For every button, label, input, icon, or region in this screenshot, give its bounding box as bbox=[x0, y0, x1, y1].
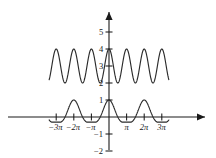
y-tick-label: 4 bbox=[99, 45, 103, 54]
y-tick-label: 2 bbox=[99, 79, 103, 88]
x-tick-label: −3π bbox=[48, 123, 62, 132]
plot-canvas bbox=[0, 0, 216, 158]
y-tick-label: −2 bbox=[94, 147, 103, 156]
trig-graph-figure: −3π−2π−ππ2π3π 54321−1−2 bbox=[0, 0, 216, 158]
x-tick-label: π bbox=[125, 123, 129, 132]
x-tick-label: 2π bbox=[140, 123, 149, 132]
y-tick-label: 1 bbox=[99, 96, 103, 105]
y-tick-label: 3 bbox=[99, 62, 103, 71]
y-axis-up-arrow-icon bbox=[105, 12, 112, 20]
x-tick-label: −2π bbox=[66, 123, 80, 132]
y-tick-label: 5 bbox=[99, 28, 103, 37]
y-tick-label: −1 bbox=[94, 130, 103, 139]
x-tick-label: 3π bbox=[157, 123, 166, 132]
x-axis-right-arrow-icon bbox=[197, 113, 205, 120]
